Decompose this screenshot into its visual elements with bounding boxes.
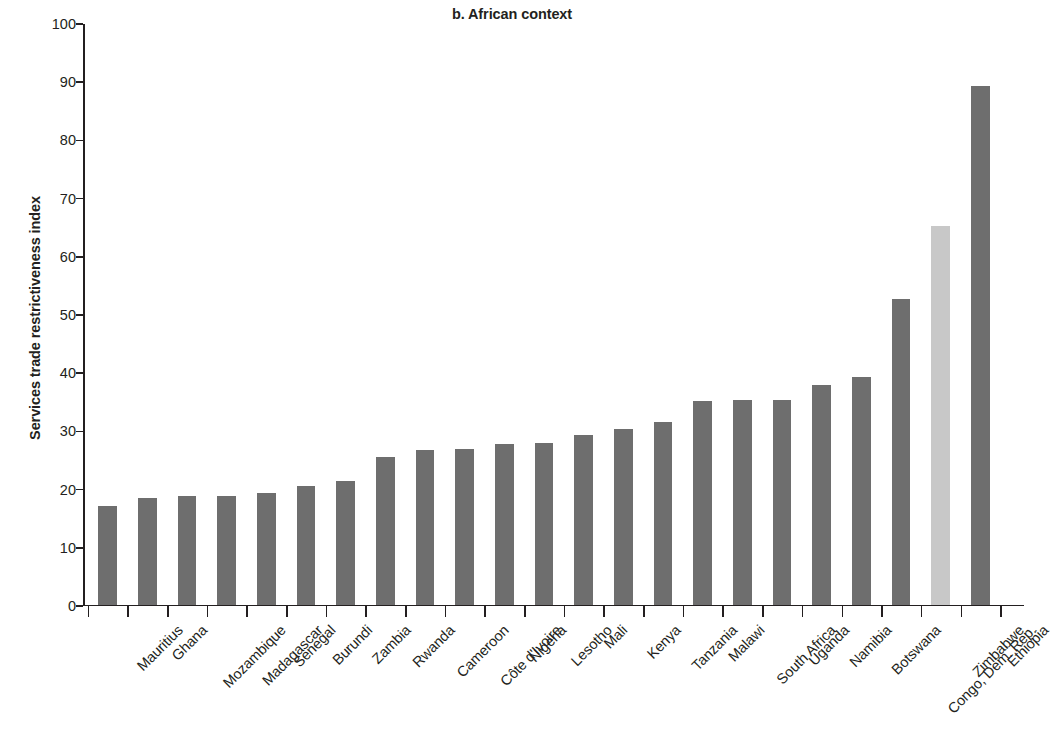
y-tick-mark: [76, 23, 83, 25]
bar[interactable]: [773, 400, 792, 605]
y-tick-mark: [76, 140, 83, 142]
bar[interactable]: [257, 493, 276, 604]
y-tick-label: 100: [52, 17, 76, 32]
y-tick-mark: [76, 547, 83, 549]
y-tick-label: 60: [60, 250, 76, 265]
bar[interactable]: [376, 457, 395, 604]
y-tick-label: 80: [60, 133, 76, 148]
y-axis-line: [83, 24, 85, 606]
x-tick-label: Namibia: [846, 622, 894, 670]
bar[interactable]: [98, 506, 117, 604]
y-tick-mark: [76, 314, 83, 316]
y-tick-mark: [76, 489, 83, 491]
bar[interactable]: [138, 498, 157, 605]
y-tick-label: 30: [60, 424, 76, 439]
plot-area: [83, 24, 1024, 606]
y-tick-label: 40: [60, 366, 76, 381]
bar[interactable]: [733, 400, 752, 604]
y-tick-label: 70: [60, 192, 76, 207]
chart-title: b. African context: [0, 6, 1024, 22]
y-tick-mark: [76, 431, 83, 433]
bar[interactable]: [693, 401, 712, 604]
y-tick-mark: [76, 81, 83, 83]
x-tick-label: Botswana: [889, 622, 944, 677]
y-tick-label: 50: [60, 308, 76, 323]
bar[interactable]: [416, 450, 435, 605]
bar[interactable]: [614, 429, 633, 604]
x-tick-label: Zambia: [369, 622, 414, 667]
x-axis-tick-labels: MauritiusGhanaMozambiqueMadagascarSenega…: [83, 606, 1024, 738]
bar[interactable]: [217, 496, 236, 605]
bar[interactable]: [535, 443, 554, 605]
bar[interactable]: [495, 444, 514, 604]
bar[interactable]: [971, 86, 990, 605]
y-tick-label: 0: [68, 599, 76, 614]
bar[interactable]: [812, 385, 831, 604]
x-tick-label: Rwanda: [410, 622, 458, 670]
x-tick-label: Burundi: [329, 622, 375, 668]
y-tick-mark: [76, 198, 83, 200]
x-tick-label: Kenya: [644, 622, 684, 662]
y-tick-label: 90: [60, 75, 76, 90]
y-axis-tick-labels: 0102030405060708090100: [22, 24, 76, 606]
bar[interactable]: [455, 449, 474, 605]
y-tick-label: 10: [60, 541, 76, 556]
bar[interactable]: [574, 435, 593, 604]
y-tick-mark: [76, 256, 83, 258]
bar[interactable]: [931, 226, 950, 604]
y-tick-mark: [76, 605, 83, 607]
bar[interactable]: [852, 377, 871, 605]
bar[interactable]: [336, 481, 355, 604]
bar[interactable]: [297, 486, 316, 605]
bar[interactable]: [178, 496, 197, 604]
y-tick-label: 20: [60, 483, 76, 498]
bar[interactable]: [892, 299, 911, 605]
y-tick-mark: [76, 372, 83, 374]
bar[interactable]: [654, 422, 673, 604]
